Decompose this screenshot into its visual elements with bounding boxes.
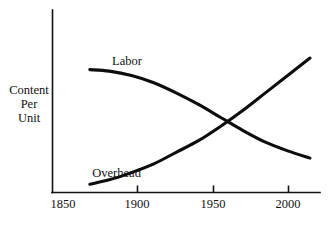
series-label-overhead: Overhead: [92, 166, 141, 180]
x-tick-label-1950: 1950: [201, 197, 226, 211]
y-axis-label-line-3: Unit: [18, 111, 41, 125]
chart-figure: 1850 1900 1950 2000 Content Per Unit Lab…: [0, 0, 334, 226]
y-axis-label-line-1: Content: [9, 83, 49, 97]
x-tick-label-1850: 1850: [51, 197, 76, 211]
chart-canvas: 1850 1900 1950 2000 Content Per Unit Lab…: [0, 0, 334, 226]
series-label-labor: Labor: [112, 54, 143, 68]
x-tick-label-2000: 2000: [276, 197, 301, 211]
x-tick-label-1900: 1900: [125, 197, 150, 211]
y-axis-label-line-2: Per: [21, 97, 39, 111]
